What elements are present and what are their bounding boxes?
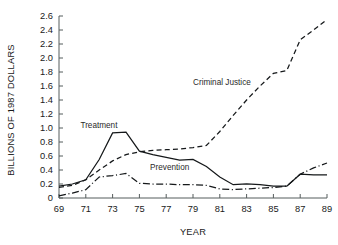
series-line-criminal-justice [59,20,327,188]
x-tick-label: 83 [241,204,251,214]
y-tick-label: 0.2 [40,179,53,189]
series-line-prevention [59,163,327,196]
y-tick-label: 0.6 [40,151,53,161]
y-tick-label: 2.0 [40,53,53,63]
x-tick-label: 73 [107,204,117,214]
y-tick-label: 0 [48,193,53,203]
x-tick-label: 89 [322,204,332,214]
annotation-treatment: Treatment [80,121,118,130]
annotation-criminal-justice: Criminal Justice [193,78,251,87]
y-axis-tick-labels: 00.20.40.60.81.01.21.41.61.82.02.22.42.6 [40,11,53,203]
y-tick-label: 1.4 [40,95,53,105]
y-tick-label: 2.6 [40,11,53,21]
y-tick-label: 1.6 [40,81,53,91]
annotation-prevention: Prevention [150,163,190,172]
y-tick-label: 1.8 [40,67,53,77]
y-tick-label: 0.4 [40,165,53,175]
x-tick-label: 85 [268,204,278,214]
x-axis-tick-labels: 6971737577798183858789 [54,204,332,214]
x-tick-label: 69 [54,204,64,214]
x-tick-label: 75 [134,204,144,214]
y-tick-label: 2.2 [40,39,53,49]
x-tick-label: 87 [295,204,305,214]
x-tick-label: 71 [81,204,91,214]
chart-figure: 00.20.40.60.81.01.21.41.61.82.02.22.42.6… [0,0,338,245]
y-tick-label: 1.0 [40,123,53,133]
y-tick-label: 1.2 [40,109,53,119]
y-axis-title: BILLIONS OF 1987 DOLLARS [6,44,16,175]
data-series-group [59,20,327,196]
series-line-treatment [59,132,327,186]
line-chart: 00.20.40.60.81.01.21.41.61.82.02.22.42.6… [0,0,338,245]
y-tick-label: 0.8 [40,137,53,147]
x-tick-label: 77 [161,204,171,214]
x-tick-label: 79 [188,204,198,214]
y-tick-label: 2.4 [40,25,53,35]
x-tick-label: 81 [215,204,225,214]
x-axis-title: YEAR [180,227,206,237]
